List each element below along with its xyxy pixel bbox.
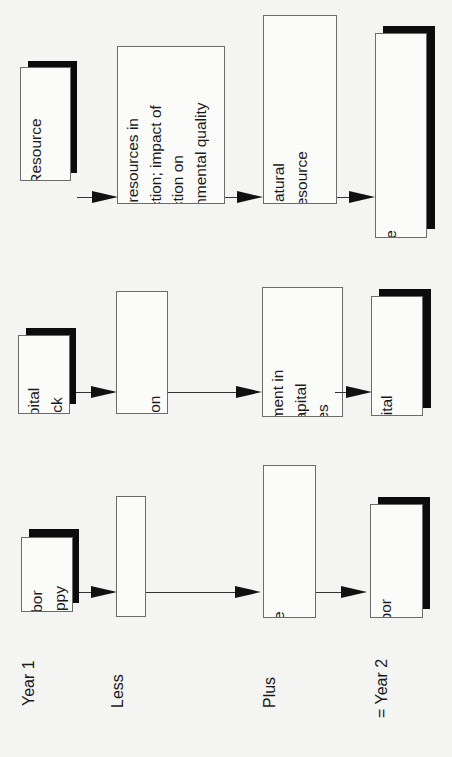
- label-year2: = Year 2: [373, 659, 391, 718]
- labor-arrow-3-line: [316, 592, 344, 593]
- nr-less-box: use of resources in production; impact o…: [117, 46, 225, 204]
- nr-end-text: New Natural Resource Base: [376, 185, 427, 238]
- label-plus: Plus: [261, 677, 279, 708]
- nr-arrow-3-head: [349, 191, 375, 203]
- labor-arrow-2-line: [146, 592, 238, 593]
- nr-less-text: use of resources in production; impact o…: [118, 95, 225, 204]
- capital-arrow-1-head: [91, 386, 117, 398]
- labor-end-box: New Labor Supply: [370, 504, 423, 618]
- labor-plus-text: entries into the labor force: [264, 564, 316, 618]
- capital-less-box: capital depreciation: [116, 291, 168, 414]
- nr-plus-box: investments in natural resources and res…: [263, 15, 337, 204]
- capital-start-box: Capital Stock: [18, 335, 70, 414]
- capital-start-text: Capital Stock: [19, 361, 70, 414]
- label-year1: Year 1: [20, 660, 38, 706]
- labor-plus-box: entries into the labor force: [263, 465, 316, 618]
- labor-arrow-2-head: [235, 586, 261, 598]
- label-less: Less: [109, 674, 127, 708]
- capital-end-text: New Capital Stock: [372, 363, 423, 416]
- nr-start-box: Natural Resource Base: [20, 67, 71, 181]
- capital-less-text: capital depreciation: [117, 361, 168, 414]
- labor-less-box: retirements: [116, 496, 146, 617]
- labor-start-text: Labor Suppy: [22, 559, 73, 612]
- labor-arrow-1-head: [91, 586, 117, 598]
- labor-arrow-3-head: [341, 586, 367, 598]
- labor-end-text: New Labor Supply: [371, 564, 423, 618]
- labor-start-box: Labor Suppy: [21, 537, 73, 612]
- capital-arrow-3-head: [346, 386, 372, 398]
- nr-arrow-1-head: [92, 191, 118, 203]
- labor-less-text: retirements: [117, 586, 146, 617]
- nr-plus-text: investments in natural resources and res…: [264, 129, 337, 204]
- capital-plus-box: investment in new capital supplies: [262, 287, 343, 417]
- nr-end-box: New Natural Resource Base: [375, 33, 427, 238]
- nr-arrow-2-head: [237, 191, 263, 203]
- nr-start-text: Natural Resource Base: [21, 129, 71, 181]
- capital-arrow-2-head: [236, 386, 262, 398]
- capital-end-box: New Capital Stock: [371, 296, 423, 416]
- capital-arrow-2-line: [168, 392, 238, 393]
- capital-plus-text: investment in new capital supplies: [263, 335, 343, 417]
